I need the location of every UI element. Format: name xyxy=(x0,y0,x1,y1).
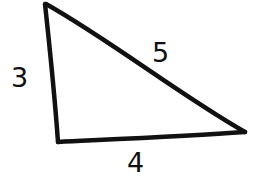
label-bottom-side: 4 xyxy=(127,147,144,177)
label-hypotenuse: 5 xyxy=(152,37,169,68)
side-left xyxy=(45,4,58,142)
side-bottom xyxy=(58,132,245,142)
side-hypotenuse xyxy=(46,4,245,132)
triangle-diagram: 3 5 4 xyxy=(0,0,267,177)
label-left-side: 3 xyxy=(11,62,28,93)
triangle xyxy=(45,4,245,142)
